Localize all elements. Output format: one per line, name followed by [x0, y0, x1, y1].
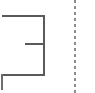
floor-plan-svg	[0, 0, 95, 93]
drawing-canvas	[0, 0, 95, 93]
canvas-background	[0, 0, 95, 93]
